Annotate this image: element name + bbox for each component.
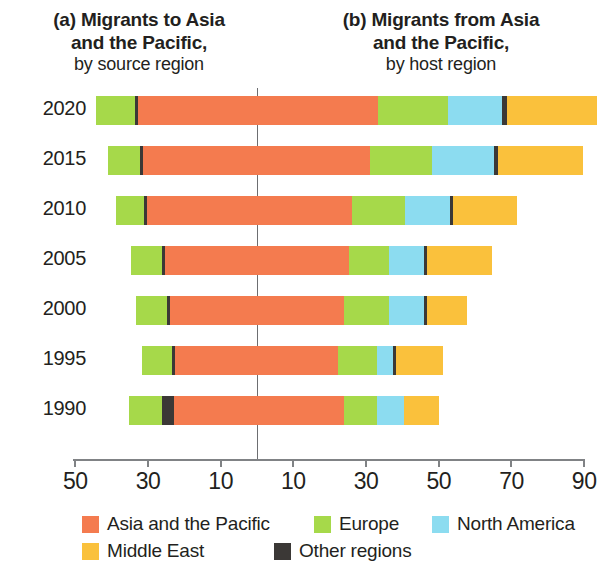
bar-segment	[257, 396, 344, 425]
panel-a-title-line3: by source region	[14, 54, 264, 76]
x-tick-label: 10	[191, 468, 251, 495]
bar-segment	[142, 346, 172, 375]
bar-left-2010	[116, 196, 257, 225]
year-label: 2005	[0, 247, 86, 270]
bar-segment	[96, 96, 135, 125]
bar-segment	[257, 146, 370, 175]
year-label: 1995	[0, 347, 86, 370]
bar-left-1995	[142, 346, 257, 375]
bar-segment	[427, 296, 467, 325]
bar-segment	[507, 96, 597, 125]
bar-left-1990	[129, 396, 257, 425]
bar-segment	[378, 96, 448, 125]
legend-label: Other regions	[299, 540, 412, 562]
bar-segment	[131, 246, 162, 275]
bar-segment	[129, 396, 162, 425]
legend-swatch-icon	[314, 516, 331, 533]
bar-segment	[432, 146, 494, 175]
bar-segment	[352, 196, 405, 225]
bar-segment	[116, 196, 144, 225]
x-tick-label: 10	[263, 468, 323, 495]
plot-area: 2020201520102005200019951990	[0, 88, 608, 460]
legend-item[interactable]: North America	[432, 513, 575, 535]
legend-label: Middle East	[107, 540, 204, 562]
bar-segment	[257, 346, 338, 375]
bar-segment	[174, 396, 257, 425]
bar-right-2005	[257, 246, 492, 275]
bar-segment	[404, 396, 439, 425]
legend-swatch-icon	[432, 516, 449, 533]
bar-right-2020	[257, 96, 597, 125]
bar-row: 2010	[0, 191, 608, 241]
panel-b-title-line1: (b) Migrants from Asia	[296, 8, 586, 31]
legend-item[interactable]: Asia and the Pacific	[82, 513, 270, 535]
bar-left-2020	[96, 96, 257, 125]
legend-item[interactable]: Europe	[314, 513, 399, 535]
bar-segment	[257, 196, 352, 225]
year-label: 2010	[0, 197, 86, 220]
x-tick	[365, 459, 367, 467]
bar-segment	[147, 196, 257, 225]
x-tick	[74, 459, 76, 467]
legend-label: Asia and the Pacific	[107, 513, 270, 535]
x-tick	[583, 459, 585, 467]
bar-segment	[396, 346, 443, 375]
bar-segment	[136, 296, 167, 325]
bar-segment	[257, 246, 349, 275]
bar-segment	[377, 396, 404, 425]
bar-segment	[338, 346, 377, 375]
bar-segment	[448, 96, 502, 125]
x-axis-line	[73, 459, 585, 461]
legend-item[interactable]: Other regions	[274, 540, 412, 562]
bar-row: 1995	[0, 341, 608, 391]
bar-right-2015	[257, 146, 583, 175]
bar-row: 1990	[0, 391, 608, 441]
panel-a-title: (a) Migrants to Asia and the Pacific, by…	[14, 8, 264, 76]
legend: Asia and the PacificEuropeNorth AmericaM…	[0, 513, 608, 565]
year-label: 2000	[0, 297, 86, 320]
bar-right-1995	[257, 346, 439, 375]
bar-segment	[344, 296, 389, 325]
legend-swatch-icon	[82, 543, 99, 560]
panel-a-title-line2: and the Pacific,	[14, 31, 264, 54]
legend-swatch-icon	[82, 516, 99, 533]
legend-item[interactable]: Middle East	[82, 540, 204, 562]
bar-row: 2020	[0, 91, 608, 141]
bar-row: 2015	[0, 141, 608, 191]
diverging-stacked-bar-chart: (a) Migrants to Asia and the Pacific, by…	[0, 0, 608, 565]
bar-segment	[427, 246, 492, 275]
x-tick	[220, 459, 222, 467]
bar-row: 2000	[0, 291, 608, 341]
bar-left-2005	[131, 246, 257, 275]
x-tick-label: 30	[336, 468, 396, 495]
bar-segment	[349, 246, 389, 275]
year-label: 2020	[0, 97, 86, 120]
bar-segment	[405, 196, 450, 225]
panel-a-title-line1: (a) Migrants to Asia	[14, 8, 264, 31]
bar-segment	[143, 146, 257, 175]
bar-segment	[453, 196, 517, 225]
x-tick	[438, 459, 440, 467]
legend-swatch-icon	[274, 543, 291, 560]
x-tick-label: 70	[481, 468, 541, 495]
year-label: 1990	[0, 397, 86, 420]
x-axis: 5030101030507090	[0, 459, 608, 509]
bar-segment	[370, 146, 432, 175]
bar-segment	[175, 346, 260, 375]
x-tick-label: 50	[409, 468, 469, 495]
x-tick-label: 50	[45, 468, 105, 495]
year-label: 2015	[0, 147, 86, 170]
bar-right-2010	[257, 196, 517, 225]
bar-segment	[498, 146, 583, 175]
x-tick	[292, 459, 294, 467]
x-tick	[510, 459, 512, 467]
bar-row: 2005	[0, 241, 608, 291]
legend-label: Europe	[339, 513, 399, 535]
panel-b-title: (b) Migrants from Asia and the Pacific, …	[296, 8, 586, 76]
bar-left-2015	[108, 146, 257, 175]
bar-segment	[108, 146, 140, 175]
x-tick-label: 30	[118, 468, 178, 495]
bar-segment	[389, 246, 424, 275]
bar-segment	[377, 346, 393, 375]
bar-segment	[389, 296, 424, 325]
